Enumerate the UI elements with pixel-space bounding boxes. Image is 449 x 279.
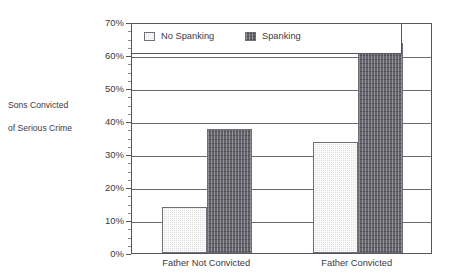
- y-axis-title-line2: of Serious Crime: [8, 123, 72, 133]
- bar-chart: Sons Convicted of Serious Crime 0%10%20%…: [0, 0, 449, 279]
- legend-label-spanking: Spanking: [262, 31, 301, 41]
- legend-item-no-spanking: No Spanking: [144, 31, 214, 41]
- y-tick-label: 40%: [82, 116, 124, 127]
- y-axis-title-line1: Sons Convicted: [8, 100, 68, 110]
- y-tick-label: 30%: [82, 149, 124, 160]
- legend-swatch-no-spanking-icon: [144, 32, 155, 41]
- y-tick-label: 20%: [82, 182, 124, 193]
- y-tick-label: 0%: [82, 248, 124, 259]
- legend: No Spanking Spanking: [132, 24, 402, 54]
- y-tick-label: 50%: [82, 83, 124, 94]
- x-tick-label: Father Convicted: [282, 258, 432, 268]
- bar-father-not-convicted-spanking: [207, 129, 252, 253]
- y-axis-title: Sons Convicted of Serious Crime: [8, 88, 104, 134]
- bar-father-convicted-no-spanking: [313, 142, 358, 253]
- legend-item-spanking: Spanking: [245, 31, 301, 41]
- y-major-tick: [126, 254, 131, 255]
- bar-father-convicted-spanking: [358, 43, 403, 253]
- bar-father-not-convicted-no-spanking: [162, 207, 207, 253]
- y-tick-label: 60%: [82, 50, 124, 61]
- legend-label-no-spanking: No Spanking: [161, 31, 214, 41]
- y-tick-label: 70%: [82, 17, 124, 28]
- y-tick-label: 10%: [82, 215, 124, 226]
- x-tick-label: Father Not Convicted: [131, 258, 281, 268]
- plot-area: [131, 23, 432, 254]
- legend-swatch-spanking-icon: [245, 32, 256, 41]
